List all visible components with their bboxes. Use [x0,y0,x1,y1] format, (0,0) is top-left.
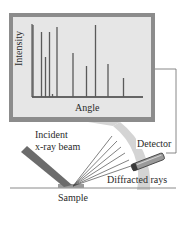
incident-beam [21,146,72,187]
incident-label-1: Incident [35,130,68,140]
detector-label: Detector [136,139,172,149]
y-axis-label: Intensity [13,31,24,66]
sample-label: Sample [58,193,88,203]
incident-label-2: x-ray beam [35,142,80,152]
x-axis-label: Angle [75,103,99,113]
diffracted-rays-label: Diffracted rays [107,175,167,185]
